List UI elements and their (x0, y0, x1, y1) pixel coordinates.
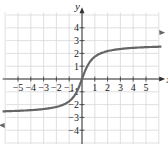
y-tick-label: 3 (74, 35, 79, 46)
x-tick-label: 5 (144, 82, 149, 93)
y-tick-label: 2 (74, 48, 79, 59)
y-axis-arrow-icon (80, 7, 85, 13)
y-tick-label: −3 (68, 112, 79, 123)
curve-arrow-left-icon (0, 123, 5, 128)
x-tick-label: −5 (13, 82, 24, 93)
chart: xy−5−4−3−2−1123454321−1−2−3−4 (0, 0, 168, 144)
curve-arrow-right-icon (159, 30, 165, 35)
x-tick-label: 1 (92, 82, 97, 93)
x-tick-label: −4 (25, 82, 36, 93)
x-tick-label: 2 (105, 82, 110, 93)
y-tick-label: 4 (74, 22, 79, 33)
x-tick-label: −2 (51, 82, 62, 93)
x-tick-label: 3 (118, 82, 123, 93)
y-tick-label: −4 (68, 125, 79, 136)
x-tick-label: 4 (131, 82, 136, 93)
x-tick-label: −3 (38, 82, 49, 93)
x-axis-label: x (165, 73, 168, 85)
y-tick-label: 1 (74, 61, 79, 72)
y-axis-label: y (74, 0, 80, 12)
x-axis-arrow-icon (159, 77, 165, 82)
